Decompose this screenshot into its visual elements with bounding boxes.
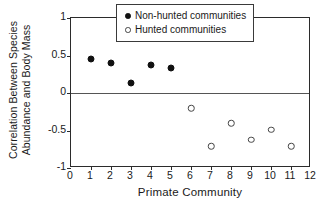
data-point [188,105,195,112]
legend-item: Hunted communities [122,23,246,37]
y-axis-tick-label: 0.5 [38,49,66,60]
x-axis-tick-label: 1 [87,169,93,181]
y-axis-tick-labels: 10.50-0.5-1 [36,0,66,180]
x-axis-tick-label: 12 [304,169,316,181]
y-axis-tick [67,93,71,94]
legend-item-label: Hunted communities [134,24,226,36]
data-point [288,143,295,150]
y-axis-title: Correlation Between Species Abundance an… [0,0,40,180]
y-axis-title-line1: Correlation Between Species [7,21,20,159]
y-axis-tick-label: -1 [38,161,66,172]
x-axis-tick-labels: 0123456789101112 [70,169,310,183]
x-axis-tick-label: 7 [207,169,213,181]
x-axis-tick-label: 11 [285,169,296,181]
x-axis-tick-label: 0 [67,169,73,181]
legend-item-label: Non-hunted communities [134,10,246,22]
x-axis-tick-label: 2 [107,169,113,181]
y-axis-tick-label: -0.5 [38,124,66,135]
y-axis-tick [67,131,71,132]
chart-legend: Non-hunted communitiesHunted communities [116,4,254,42]
data-point [208,143,215,150]
y-axis-tick-label: 1 [38,11,66,22]
chart-figure: Correlation Between Species Abundance an… [0,0,326,211]
y-axis-tick-label: 0 [38,86,66,97]
data-point [108,60,115,67]
x-axis-tick-label: 8 [227,169,233,181]
legend-item: Non-hunted communities [122,9,246,23]
x-axis-title: Primate Community [70,186,310,198]
data-point [148,62,155,69]
zero-reference-line [71,93,309,94]
x-axis-tick-label: 3 [127,169,133,181]
filled-circle-icon [122,13,134,19]
data-point [228,120,235,127]
y-axis-title-line2: Abundance and Body Mass [20,21,33,159]
data-point [88,56,95,63]
x-axis-tick-label: 6 [187,169,193,181]
data-point [168,65,175,72]
x-axis-tick-label: 5 [167,169,173,181]
y-axis-tick [67,18,71,19]
y-axis-tick [67,56,71,57]
data-point [128,79,135,86]
data-point [248,136,255,143]
x-axis-tick-label: 4 [147,169,153,181]
data-point [268,127,275,134]
open-circle-icon [122,27,134,33]
x-axis-tick-label: 9 [247,169,253,181]
x-axis-tick-label: 10 [264,169,276,181]
